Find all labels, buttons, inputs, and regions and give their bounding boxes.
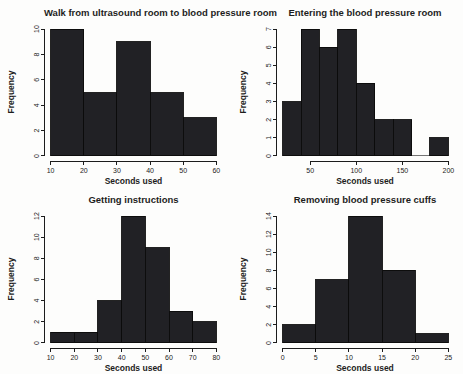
x-tick-label: 150	[396, 167, 408, 174]
panel-entering-histogram: Entering the blood pressure room Frequen…	[232, 0, 463, 187]
histogram-bar	[382, 270, 415, 342]
x-tick-label: 25	[444, 354, 452, 361]
y-tick-label: 0	[33, 154, 40, 158]
histogram-bar	[393, 120, 411, 156]
histogram-bar	[415, 334, 448, 343]
x-tick-label: 60	[165, 354, 173, 361]
x-tick-label: 50	[306, 167, 314, 174]
histogram-bar	[429, 138, 447, 156]
y-tick-label: 12	[33, 212, 40, 220]
y-tick-label: 6	[265, 287, 272, 291]
histogram-bar	[319, 47, 337, 156]
x-axis-label: Seconds used	[44, 363, 223, 373]
y-tick-label: 10	[33, 25, 40, 33]
chart-title: Removing blood pressure cuffs	[276, 194, 455, 205]
x-tick-label: 20	[70, 354, 78, 361]
y-tick-label: 6	[33, 277, 40, 281]
x-tick-label: 50	[179, 167, 187, 174]
panel-walk-histogram: Walk from ultrasound room to blood press…	[0, 0, 232, 187]
histogram-bar	[348, 216, 381, 343]
y-tick-label: 0	[265, 341, 272, 345]
chart-title: Entering the blood pressure room	[276, 7, 455, 18]
y-tick-label: 4	[33, 103, 40, 107]
histogram-bar	[183, 118, 216, 156]
y-tick-label: 2	[265, 118, 272, 122]
y-tick-label: 6	[33, 78, 40, 82]
x-tick-label: 40	[146, 167, 154, 174]
histogram-bar	[117, 42, 150, 156]
histogram-bar	[282, 102, 300, 156]
instructions-histogram-plot: 1020304050607080024681012	[0, 187, 232, 374]
y-tick-label: 2	[33, 320, 40, 324]
y-tick-label: 12	[265, 230, 272, 238]
histogram-bar	[374, 120, 392, 156]
y-tick-label: 7	[265, 27, 272, 31]
y-tick-label: 10	[265, 248, 272, 256]
y-tick-label: 8	[265, 268, 272, 272]
x-tick-label: 200	[442, 167, 454, 174]
histogram-bar	[315, 280, 348, 343]
y-tick-label: 1	[265, 136, 272, 140]
x-tick-label: 70	[189, 354, 197, 361]
histogram-bar	[150, 93, 183, 156]
y-tick-label: 5	[265, 63, 272, 67]
walk-histogram-plot: 1020304050600246810	[0, 0, 232, 187]
x-tick-label: 15	[378, 354, 386, 361]
y-tick-label: 10	[33, 233, 40, 241]
x-axis-label: Seconds used	[276, 363, 455, 373]
histogram-bar	[145, 248, 169, 343]
x-axis-label: Seconds used	[44, 176, 223, 186]
x-tick-label: 50	[141, 354, 149, 361]
y-tick-label: 2	[33, 129, 40, 133]
x-tick-label: 10	[47, 354, 55, 361]
histogram-bar	[337, 29, 355, 156]
y-tick-label: 8	[33, 256, 40, 260]
y-tick-label: 3	[265, 100, 272, 104]
y-tick-label: 0	[265, 154, 272, 158]
chart-title: Walk from ultrasound room to blood press…	[44, 7, 223, 18]
histogram-bar	[74, 332, 98, 343]
entering-histogram-plot: 5010015020001234567	[232, 0, 463, 187]
x-tick-label: 80	[212, 354, 220, 361]
histogram-figure: Walk from ultrasound room to blood press…	[0, 0, 463, 374]
histogram-bar	[84, 93, 117, 156]
histogram-bar	[122, 216, 146, 343]
x-axis-label: Seconds used	[276, 176, 455, 186]
histogram-bar	[282, 325, 315, 343]
histogram-bar	[51, 29, 84, 156]
panel-removing-histogram: Removing blood pressure cuffs Frequency …	[232, 187, 463, 374]
x-tick-label: 100	[350, 167, 362, 174]
x-tick-label: 60	[212, 167, 220, 174]
y-tick-label: 2	[265, 323, 272, 327]
y-tick-label: 8	[33, 52, 40, 56]
y-tick-label: 4	[265, 305, 272, 309]
histogram-bar	[193, 322, 217, 343]
x-tick-label: 20	[80, 167, 88, 174]
x-tick-label: 20	[411, 354, 419, 361]
histogram-bar	[356, 83, 374, 155]
x-tick-label: 30	[113, 167, 121, 174]
chart-title: Getting instructions	[44, 194, 223, 205]
removing-histogram-plot: 051015202502468101214	[232, 187, 463, 374]
panel-instructions-histogram: Getting instructions Frequency 102030405…	[0, 187, 232, 374]
histogram-bar	[51, 332, 75, 343]
y-tick-label: 6	[265, 45, 272, 49]
y-tick-label: 4	[33, 299, 40, 303]
x-tick-label: 5	[313, 354, 317, 361]
histogram-bar	[301, 29, 319, 156]
y-tick-label: 4	[265, 81, 272, 85]
x-tick-label: 0	[280, 354, 284, 361]
histogram-bar	[169, 311, 193, 343]
y-tick-label: 14	[265, 212, 272, 220]
histogram-bar	[98, 301, 122, 343]
x-tick-label: 10	[345, 354, 353, 361]
x-tick-label: 40	[118, 354, 126, 361]
x-tick-label: 30	[94, 354, 102, 361]
y-tick-label: 0	[33, 341, 40, 345]
x-tick-label: 10	[47, 167, 55, 174]
